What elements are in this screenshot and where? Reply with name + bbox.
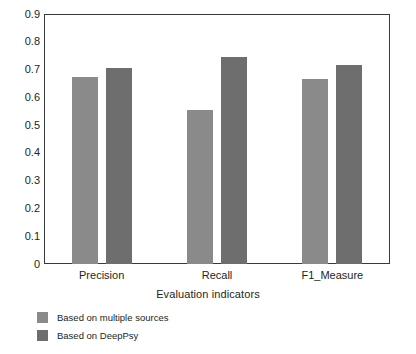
legend-label: Based on DeepPsy bbox=[57, 330, 138, 341]
bars-layer bbox=[44, 14, 389, 264]
legend-swatch-icon bbox=[37, 330, 48, 341]
y-axis-tick-label: 0 bbox=[4, 259, 40, 270]
legend-swatch-icon bbox=[37, 312, 48, 323]
y-axis-tick-label: 0.6 bbox=[4, 92, 40, 103]
y-axis-tick-label: 0.7 bbox=[4, 64, 40, 75]
legend-item: Based on multiple sources bbox=[37, 308, 168, 326]
x-axis-category-label: Precision bbox=[79, 269, 124, 281]
y-axis-tick-label: 0.5 bbox=[4, 120, 40, 131]
y-axis-tick-labels: 0.90.80.70.60.50.40.30.20.10 bbox=[0, 0, 40, 280]
legend-item: Based on DeepPsy bbox=[37, 326, 168, 344]
legend-label: Based on multiple sources bbox=[57, 312, 168, 323]
bar-f1_measure-series0 bbox=[302, 79, 328, 264]
y-axis-tick-label: 0.9 bbox=[4, 9, 40, 20]
y-axis-tick-label: 0.2 bbox=[4, 203, 40, 214]
x-axis-category-label: Recall bbox=[202, 269, 233, 281]
y-axis-tick-label: 0.8 bbox=[4, 36, 40, 47]
bar-f1_measure-series1 bbox=[336, 65, 362, 264]
x-axis-title: Evaluation indicators bbox=[0, 288, 416, 300]
y-axis-tick-label: 0.1 bbox=[4, 231, 40, 242]
bar-recall-series1 bbox=[221, 57, 247, 264]
bar-chart: Accuracy 0.90.80.70.60.50.40.30.20.10 Pr… bbox=[0, 0, 416, 354]
bar-recall-series0 bbox=[187, 110, 213, 264]
y-axis-tick-label: 0.3 bbox=[4, 175, 40, 186]
y-axis-tick-label: 0.4 bbox=[4, 147, 40, 158]
x-axis-category-label: F1_Measure bbox=[301, 269, 363, 281]
bar-precision-series1 bbox=[106, 68, 132, 264]
bar-precision-series0 bbox=[72, 77, 98, 265]
chart-legend: Based on multiple sourcesBased on DeepPs… bbox=[37, 308, 168, 344]
